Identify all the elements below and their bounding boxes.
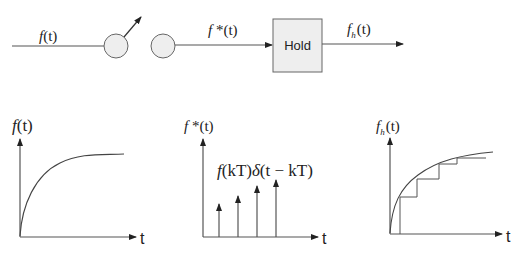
sampler-hold-diagram: f(t) f *(t) Hold fh(t) f(t) t f *(t) t [0, 0, 522, 258]
switch-arm-arrow-icon [124, 17, 141, 37]
impulse-train-annotation: f(kT)δ(t − kT) [217, 161, 313, 180]
sampled-signal-label: f *(t) [208, 22, 238, 39]
plot-continuous-xlabel: t [140, 230, 145, 247]
hold-block-label: Hold [284, 38, 311, 53]
plot-held: fh(t) t [376, 118, 511, 245]
block-diagram: f(t) f *(t) Hold fh(t) [12, 17, 403, 72]
plot-held-ylabel: fh(t) [376, 118, 400, 137]
plot-continuous: f(t) t [12, 116, 145, 247]
plot-sampled: f *(t) t f(kT)δ(t − kT) [184, 118, 327, 247]
sampler-switch-contact-left [104, 34, 128, 58]
input-signal-label: f(t) [39, 28, 57, 45]
plot-continuous-ylabel: f(t) [12, 116, 33, 135]
plot-held-xlabel: t [506, 228, 511, 245]
plot-sampled-xlabel: t [322, 230, 327, 247]
plot-sampled-ylabel: f *(t) [184, 118, 214, 135]
output-signal-label: fh(t) [347, 21, 371, 40]
continuous-curve [20, 154, 124, 236]
sampler-switch-contact-right [151, 34, 175, 58]
zero-order-hold-staircase [400, 158, 486, 234]
